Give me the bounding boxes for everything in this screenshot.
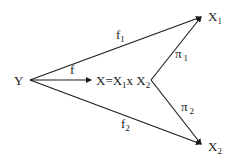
node-x1: X1 <box>208 10 222 28</box>
node-x-sub2: 2 <box>146 80 151 90</box>
node-x-main: X=X <box>96 73 122 88</box>
arrow-pi2-text: π <box>181 99 188 114</box>
node-x-mid: x X <box>127 73 146 88</box>
node-x1-label: X <box>208 9 217 24</box>
node-x2-label: X <box>208 139 217 154</box>
arrow-f2-sub: 2 <box>125 123 130 133</box>
node-x-product: X=X1x X2 <box>96 74 150 92</box>
node-x2-sub: 2 <box>217 146 222 156</box>
arrow-pi2-sub: 2 <box>190 106 195 116</box>
arrow-f-label: f <box>70 63 74 76</box>
arrow-f1-sub: 1 <box>120 34 125 44</box>
node-x2: X2 <box>208 140 222 158</box>
node-y-label: Y <box>14 73 23 88</box>
arrow-f2-label: f2 <box>121 117 130 135</box>
arrow-pi1-sub: 1 <box>184 53 189 63</box>
arrow-f1-label: f1 <box>116 28 125 46</box>
node-x1-sub: 1 <box>217 16 222 26</box>
arrow-f-text: f <box>70 62 74 77</box>
arrow-pi2-label: π2 <box>181 100 194 118</box>
arrow-pi1-text: π <box>175 46 182 61</box>
node-y: Y <box>14 74 23 87</box>
arrow-pi1-label: π1 <box>175 47 188 65</box>
